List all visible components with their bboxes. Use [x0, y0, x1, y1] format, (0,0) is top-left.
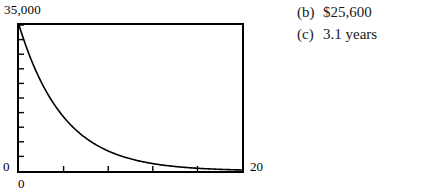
answer-list: (b) $25,600 (c) 3.1 years — [297, 1, 431, 45]
decay-chart-figure: 35,000 0 0 20 — [0, 0, 270, 192]
answer-value-b: $25,600 — [323, 1, 431, 23]
y-axis-max-label: 35,000 — [4, 2, 41, 18]
answer-label-c: (c) — [297, 23, 323, 45]
answer-item-b: (b) $25,600 — [297, 1, 431, 23]
x-axis-min-label: 0 — [18, 176, 25, 192]
decay-curve-svg — [19, 25, 242, 171]
answer-item-c: (c) 3.1 years — [297, 23, 431, 45]
x-axis-max-label: 20 — [250, 159, 263, 175]
exponential-decay-curve — [19, 25, 242, 170]
answer-label-b: (b) — [297, 1, 323, 23]
y-axis-min-label: 0 — [3, 159, 10, 175]
answer-value-c: 3.1 years — [323, 23, 431, 45]
y-axis-ticks — [19, 25, 24, 156]
plot-area — [17, 23, 244, 173]
figure-page: 35,000 0 0 20 (b) $25,600 (c) 3.1 years — [0, 0, 431, 192]
